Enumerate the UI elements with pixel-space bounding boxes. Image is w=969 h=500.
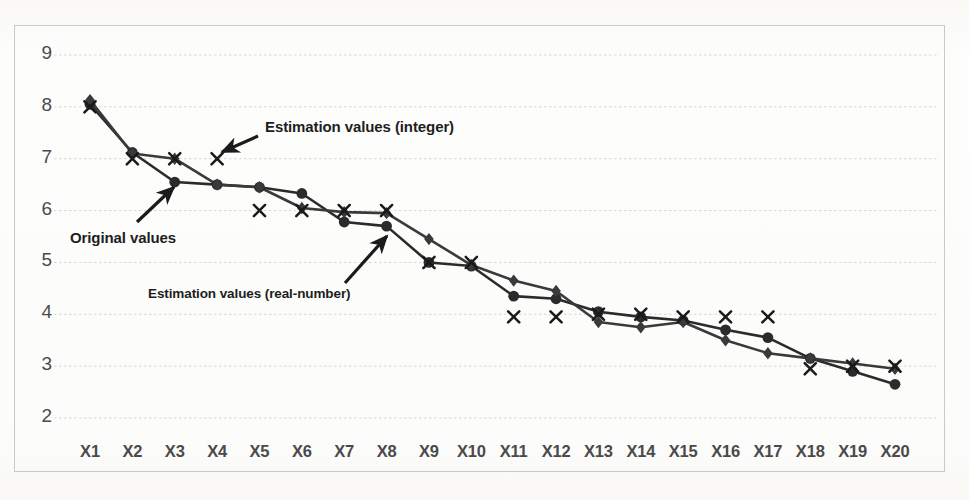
- annotation-arrow: [222, 136, 258, 152]
- series-line: [90, 100, 895, 369]
- annotation-arrow: [137, 187, 174, 222]
- data-point-marker: [890, 379, 901, 390]
- series-line: [90, 104, 895, 384]
- data-point-marker: [424, 233, 434, 245]
- data-point-marker: [720, 311, 731, 322]
- data-point-marker: [762, 311, 773, 322]
- y-axis-tick-label: 3: [26, 353, 52, 375]
- y-axis-tick-label: 6: [26, 198, 52, 220]
- series-markers-group: [84, 94, 900, 390]
- data-point-marker: [212, 178, 222, 190]
- data-point-marker: [255, 181, 265, 193]
- annotation-label-estimation-integer: Estimation values (integer): [265, 118, 454, 135]
- y-axis-tick-label: 9: [26, 42, 52, 64]
- data-point-marker: [720, 324, 731, 335]
- y-axis-tick-label: 4: [26, 301, 52, 323]
- data-point-marker: [721, 334, 731, 346]
- annotation-label-estimation-real-number: Estimation values (real-number): [148, 286, 350, 301]
- data-point-marker: [805, 363, 816, 374]
- chart-page: 23456789 X1X2X3X4X5X6X7X8X9X10X11X12X13X…: [0, 0, 969, 500]
- series-lines-group: [90, 100, 895, 384]
- y-axis-tick-label: 2: [26, 405, 52, 427]
- data-point-marker: [508, 311, 519, 322]
- annotation-label-original-values: Original values: [70, 229, 176, 246]
- line-chart-canvas: [0, 0, 969, 500]
- y-axis-tick-label: 5: [26, 249, 52, 271]
- data-point-marker: [762, 332, 773, 343]
- annotation-arrow: [345, 236, 387, 283]
- data-point-marker: [296, 188, 307, 199]
- data-point-marker: [763, 347, 773, 359]
- data-point-marker: [169, 177, 180, 188]
- x-axis-tick-label: X20: [869, 442, 921, 461]
- data-point-marker: [508, 291, 519, 302]
- data-point-marker: [550, 311, 561, 322]
- data-point-marker: [381, 221, 392, 232]
- data-point-marker: [636, 321, 646, 333]
- y-axis-tick-label: 8: [26, 94, 52, 116]
- y-axis-tick-label: 7: [26, 146, 52, 168]
- data-point-marker: [509, 274, 519, 286]
- data-point-marker: [805, 352, 815, 364]
